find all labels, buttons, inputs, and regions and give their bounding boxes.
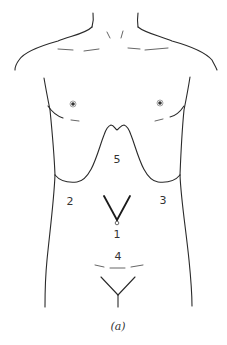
pubic-dash-3 — [131, 265, 143, 267]
sternal-notch-right — [121, 31, 123, 38]
region-label-4: 4 — [115, 251, 122, 262]
shoulder-left — [15, 27, 92, 70]
sternal-notch-left — [107, 32, 110, 38]
clavicle-right-1 — [128, 48, 140, 49]
region-label-3: 3 — [160, 195, 167, 206]
pubic-dash-1 — [95, 265, 104, 267]
torso-diagram: 5 2 3 1 4 (a) — [0, 0, 227, 345]
nipple-left — [71, 102, 75, 106]
clavicle-left-2 — [84, 49, 99, 51]
subpectoral-right — [155, 119, 163, 121]
shoulder-right — [138, 27, 217, 70]
umbilicus — [115, 221, 119, 225]
figure-caption: (a) — [110, 320, 125, 333]
torso-left-lower — [45, 175, 55, 307]
region-label-1: 1 — [114, 229, 121, 240]
torso-left-upper — [44, 78, 55, 175]
torso-right-upper — [180, 77, 190, 175]
pectoral-right — [170, 106, 184, 117]
torso-right-lower — [180, 175, 192, 306]
torso-outline-svg — [0, 0, 227, 345]
subpectoral-left — [71, 120, 79, 121]
groin-y-right — [118, 277, 135, 295]
nipple-right — [158, 101, 162, 105]
groin-y-left — [101, 277, 118, 295]
clavicle-right-2 — [145, 48, 168, 50]
neck-left-line — [92, 13, 93, 27]
umbilical-v-left — [104, 196, 117, 220]
umbilical-v-right — [117, 196, 130, 220]
clavicle-left-1 — [58, 49, 73, 50]
region-label-5: 5 — [114, 154, 121, 165]
neck-right-line — [138, 13, 139, 27]
region-label-2: 2 — [67, 196, 74, 207]
